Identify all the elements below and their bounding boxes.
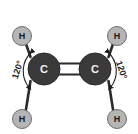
hydrogen-bottom-right-label: H [114, 114, 121, 124]
hydrogen-bottom-left-label: H [19, 114, 26, 124]
atom-hydrogen-bottom-left: H [13, 110, 32, 129]
atom-carbon-right: C [79, 53, 111, 85]
carbon-left-label: C [40, 63, 48, 75]
hydrogen-top-left-label: H [19, 31, 26, 41]
hydrogen-top-right-label: H [114, 31, 121, 41]
atom-hydrogen-top-left: H [13, 27, 32, 46]
carbon-right-label: C [91, 63, 99, 75]
molecule-diagram: 120° 120° C C H H H H [0, 0, 138, 134]
molecule-svg-canvas: 120° 120° C C H H H H [0, 0, 138, 134]
atom-carbon-left: C [28, 53, 60, 85]
atom-hydrogen-top-right: H [108, 27, 127, 46]
atom-hydrogen-bottom-right: H [108, 110, 127, 129]
